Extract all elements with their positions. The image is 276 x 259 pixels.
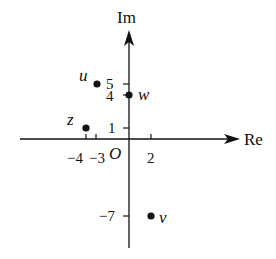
y-tick-label-minus7: −7 <box>99 208 115 224</box>
origin-label: O <box>109 144 121 163</box>
y-tick-label-1: 1 <box>108 120 116 136</box>
point-label-w: w <box>138 85 150 104</box>
point-label-v: v <box>159 208 167 227</box>
point-w <box>125 91 132 98</box>
x-tick-label-2: 2 <box>147 150 155 166</box>
point-z <box>82 124 89 131</box>
x-tick-label-minus4: −4 <box>67 150 83 166</box>
imaginary-axis-label: Im <box>117 8 136 27</box>
point-v <box>147 212 154 219</box>
y-tick-label-4: 4 <box>106 88 114 104</box>
complex-plane: Re Im O −4 −3 2 5 4 1 −7 u w z v <box>0 0 276 259</box>
point-label-z: z <box>66 110 74 129</box>
point-label-u: u <box>79 66 88 85</box>
real-axis-label: Re <box>244 130 263 149</box>
x-tick-label-minus3: −3 <box>89 150 105 166</box>
point-u <box>93 80 100 87</box>
